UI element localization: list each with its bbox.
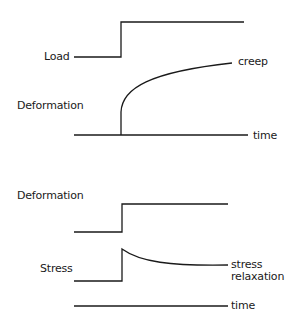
time-label-top: time xyxy=(253,130,277,142)
load-step-line xyxy=(74,22,244,57)
creep-label: creep xyxy=(238,56,268,68)
stress-label: Stress xyxy=(40,263,73,275)
deformation-label-top: Deformation xyxy=(17,100,84,112)
deformation-step-line xyxy=(74,204,228,232)
load-label: Load xyxy=(44,51,70,63)
stress-relaxation-curve xyxy=(74,249,228,281)
time-label-bottom: time xyxy=(231,300,255,312)
stress-relaxation-label-line2: relaxation xyxy=(231,271,284,283)
deformation-label-bottom: Deformation xyxy=(17,190,84,202)
creep-curve xyxy=(121,63,232,135)
